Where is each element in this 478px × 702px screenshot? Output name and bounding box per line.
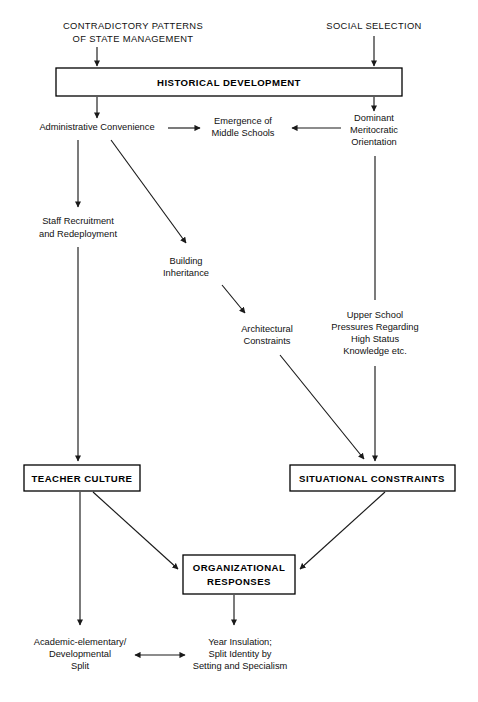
box-teacher-culture-label: TEACHER CULTURE: [32, 473, 133, 484]
node-building-line1: Building: [169, 256, 202, 266]
node-administrative-convenience: Administrative Convenience: [39, 122, 154, 132]
node-upper-school-line4: Knowledge etc.: [343, 346, 407, 356]
node-architectural-line1: Architectural: [241, 324, 293, 334]
node-upper-school-line1: Upper School: [347, 310, 403, 320]
edge-administrative-to-building: [111, 140, 186, 243]
outcome-left-line3: Split: [71, 661, 90, 671]
outcome-right-line2: Split Identity by: [208, 649, 271, 659]
flowchart-svg: CONTRADICTORY PATTERNS OF STATE MANAGEME…: [0, 0, 478, 702]
node-staff-line2: and Redeployment: [39, 229, 117, 239]
edge-situational-to-organizational: [300, 492, 385, 569]
node-emergence-line1: Emergence of: [214, 116, 272, 126]
outcome-right-line3: Setting and Specialism: [193, 661, 288, 671]
node-emergence-line2: Middle Schools: [211, 128, 274, 138]
node-upper-school-line2: Pressures Regarding: [331, 322, 418, 332]
edge-building-to-architectural: [222, 285, 245, 313]
outcome-left-line1: Academic-elementary/: [34, 637, 127, 647]
input-contradictory-patterns-line1: CONTRADICTORY PATTERNS: [63, 20, 203, 31]
edge-architectural-to-situational: [280, 355, 364, 459]
outcome-left-line2: Developmental: [49, 649, 111, 659]
flowchart-page: CONTRADICTORY PATTERNS OF STATE MANAGEME…: [0, 0, 478, 702]
input-contradictory-patterns-line2: OF STATE MANAGEMENT: [73, 33, 194, 44]
node-architectural-line2: Constraints: [243, 336, 290, 346]
box-organizational-responses-line1: ORGANIZATIONAL: [193, 562, 285, 573]
outcome-right-line1: Year Insulation;: [208, 637, 272, 647]
node-dominant-line2: Meritocratic: [350, 125, 398, 135]
node-dominant-line1: Dominant: [354, 113, 394, 123]
node-staff-line1: Staff Recruitment: [42, 216, 114, 226]
node-building-line2: Inheritance: [163, 268, 209, 278]
box-organizational-responses-line2: RESPONSES: [207, 576, 271, 587]
edge-teacher-culture-to-organizational: [93, 492, 178, 569]
node-upper-school-line3: High Status: [351, 334, 399, 344]
input-social-selection: SOCIAL SELECTION: [326, 20, 421, 31]
node-dominant-line3: Orientation: [351, 137, 396, 147]
box-situational-constraints-label: SITUATIONAL CONSTRAINTS: [299, 473, 445, 484]
box-historical-development-label: HISTORICAL DEVELOPMENT: [157, 77, 301, 88]
